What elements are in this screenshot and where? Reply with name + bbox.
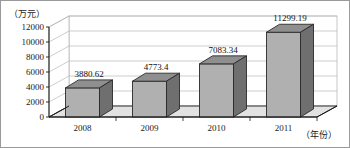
y-tick-label: 12000	[22, 22, 45, 32]
bar-side	[301, 24, 314, 117]
y-tick-label: 4000	[26, 82, 45, 92]
bar-front	[66, 88, 100, 117]
x-tick-label: 2009	[141, 123, 160, 133]
bar-front	[133, 81, 167, 117]
y-tick-label: 2000	[26, 97, 45, 107]
y-tick-label: 10000	[22, 37, 45, 47]
y-tick-label: 0	[40, 112, 45, 122]
chart-container: 020004000600080001000012000 200820092010…	[0, 0, 350, 148]
bar-front	[200, 64, 234, 117]
x-axis-ticks: 2008200920102011	[74, 117, 318, 133]
bar-side	[234, 56, 247, 117]
bar-value-label: 3880.62	[74, 69, 103, 79]
x-axis-title: （年份）	[301, 129, 337, 140]
y-tick-label: 8000	[26, 52, 45, 62]
bar-value-label: 7083.34	[208, 45, 238, 55]
column-chart-3d: 020004000600080001000012000 200820092010…	[1, 1, 350, 148]
y-axis-ticks: 020004000600080001000012000	[22, 22, 50, 122]
y-tick-label: 6000	[26, 67, 45, 77]
bar-value-label: 11299.19	[273, 13, 307, 23]
x-tick-label: 2010	[208, 123, 227, 133]
bar-front	[267, 32, 301, 117]
x-tick-label: 2008	[74, 123, 93, 133]
y-axis-title: （万元）	[9, 9, 45, 19]
bar-side	[167, 73, 180, 117]
bar-value-label: 4773.4	[144, 62, 169, 72]
x-tick-label: 2011	[275, 123, 293, 133]
